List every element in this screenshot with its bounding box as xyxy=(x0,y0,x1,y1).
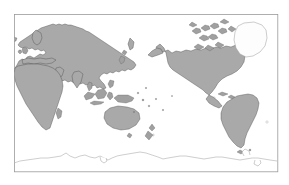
map-canvas xyxy=(0,0,289,185)
mediterranean-coast xyxy=(22,58,56,64)
falkland-islands xyxy=(249,149,251,151)
world-map-figure xyxy=(0,0,289,185)
pacific-island-8 xyxy=(133,111,134,112)
pacific-island-5 xyxy=(162,109,163,110)
pacific-island-2 xyxy=(148,105,150,107)
pacific-island-6 xyxy=(145,87,146,88)
pacific-island-4 xyxy=(137,92,139,94)
pacific-island-7 xyxy=(171,95,172,96)
pacific-island-3 xyxy=(155,98,156,99)
pacific-island-1 xyxy=(142,99,144,101)
